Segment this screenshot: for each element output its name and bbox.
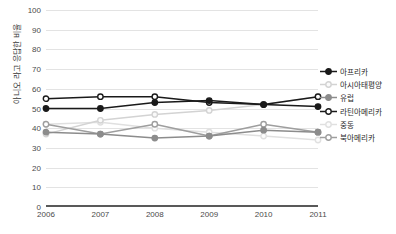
legend: 아프리카아시아태평양유럽라틴아메리카중동북아메리카	[320, 66, 382, 143]
y-axis-tick-label: 100	[28, 6, 41, 15]
line-chart: 아니오 라고 응답한 비율 0102030405060708090100 200…	[0, 0, 396, 234]
legend-marker-icon	[320, 120, 337, 129]
series-line	[46, 101, 318, 109]
data-series-layer	[46, 10, 318, 207]
x-axis-tick-label: 2007	[91, 210, 109, 219]
legend-item-1[interactable]: 아시아태평양	[320, 79, 382, 90]
data-point	[152, 112, 157, 117]
data-point	[43, 122, 48, 127]
legend-marker-icon	[320, 107, 337, 116]
legend-label: 라틴아메리카	[340, 106, 382, 117]
x-axis-tick-label: 2008	[146, 210, 164, 219]
legend-marker-icon	[320, 80, 337, 89]
x-axis-tick-label: 2009	[200, 210, 218, 219]
data-point	[261, 122, 266, 127]
legend-label: 중동	[340, 119, 354, 130]
legend-item-2[interactable]: 유럽	[320, 92, 382, 103]
data-point	[98, 106, 103, 111]
legend-marker-icon	[320, 93, 337, 102]
legend-item-4[interactable]: 중동	[320, 119, 382, 130]
data-point	[43, 96, 48, 101]
data-point	[261, 102, 266, 107]
data-point	[261, 133, 266, 138]
legend-marker-icon	[320, 67, 337, 76]
y-axis-tick-label: 40	[32, 124, 41, 133]
data-point	[261, 127, 266, 132]
legend-label: 아프리카	[340, 66, 368, 77]
data-point	[152, 94, 157, 99]
y-axis-tick-label: 20	[32, 163, 41, 172]
data-point	[98, 94, 103, 99]
y-axis-tick-label: 80	[32, 45, 41, 54]
data-point	[207, 133, 212, 138]
y-axis-tick-label: 90	[32, 25, 41, 34]
plot-area: 0102030405060708090100 20062007200820092…	[46, 10, 318, 207]
x-axis-tick-label: 2011	[309, 210, 326, 219]
data-point	[43, 106, 48, 111]
x-axis-tick-label: 2010	[255, 210, 273, 219]
data-point	[152, 135, 157, 140]
legend-item-5[interactable]: 북아메리카	[320, 132, 382, 143]
legend-marker-icon	[320, 133, 337, 142]
data-point	[98, 131, 103, 136]
y-axis-tick-label: 60	[32, 84, 41, 93]
data-point	[207, 108, 212, 113]
data-point	[98, 118, 103, 123]
y-axis-tick-label: 30	[32, 143, 41, 152]
legend-label: 아시아태평양	[340, 79, 382, 90]
legend-label: 북아메리카	[340, 132, 375, 143]
y-axis-tick-label: 50	[32, 104, 41, 113]
data-point	[43, 129, 48, 134]
y-axis-tick-label: 10	[32, 183, 41, 192]
legend-label: 유럽	[340, 92, 354, 103]
series-line	[46, 97, 318, 105]
data-point	[152, 122, 157, 127]
legend-item-0[interactable]: 아프리카	[320, 66, 382, 77]
x-axis-line	[46, 205, 318, 207]
x-axis-tick-label: 2006	[37, 210, 55, 219]
legend-item-3[interactable]: 라틴아메리카	[320, 106, 382, 117]
data-point	[152, 100, 157, 105]
y-axis-title: 아니오 라고 응답한 비율	[11, 4, 22, 124]
y-axis-tick-label: 70	[32, 65, 41, 74]
data-point	[207, 98, 212, 103]
